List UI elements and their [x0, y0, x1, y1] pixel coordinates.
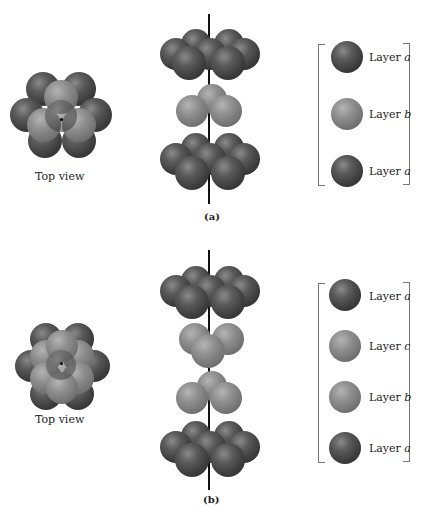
center-point — [60, 118, 63, 121]
legend-sphere-a-1 — [331, 41, 363, 73]
legend-label-a-1: Layer a — [369, 51, 411, 64]
legend-label-b-1: Layer a — [369, 290, 411, 303]
legend-label-b-3: Layer b — [369, 391, 411, 404]
legend-bracket-right-b — [403, 282, 410, 462]
legend-label-a-3: Layer a — [369, 165, 411, 178]
legend-label-b-4: Layer a — [369, 442, 411, 455]
legend-sphere-b-1 — [329, 279, 361, 311]
legend-bracket-left-a — [318, 44, 325, 186]
legend-sphere-b-2 — [329, 330, 361, 362]
top-view-label-a: Top view — [35, 170, 84, 183]
legend-bracket-left-b — [318, 283, 325, 463]
legend-label-b-2: Layer c — [369, 340, 411, 353]
caption-a: (a) — [204, 211, 220, 222]
legend-sphere-a-2 — [331, 98, 363, 130]
legend-sphere-b-3 — [329, 381, 361, 413]
top-view-label-b: Top view — [35, 413, 84, 426]
legend-label-a-2: Layer b — [369, 108, 411, 121]
center-point — [60, 362, 63, 365]
caption-b: (b) — [203, 494, 219, 505]
legend-sphere-a-3 — [331, 155, 363, 187]
legend-sphere-b-4 — [329, 432, 361, 464]
